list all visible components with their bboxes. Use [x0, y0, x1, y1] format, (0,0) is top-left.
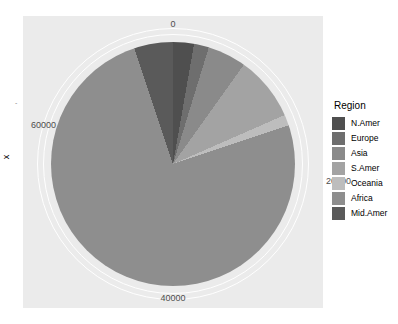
legend-item[interactable]: S.Amer	[332, 161, 398, 175]
axis-minor-tick-mark: -	[15, 99, 17, 106]
legend-title: Region	[334, 100, 398, 111]
legend-swatch-icon	[332, 192, 345, 205]
axis-tick-left: 60000	[31, 120, 56, 130]
y-axis-title: x	[1, 155, 11, 160]
pie-chart	[51, 42, 295, 286]
legend-swatch-icon	[332, 132, 345, 145]
legend-item[interactable]: Asia	[332, 146, 398, 160]
legend-swatch-icon	[332, 147, 345, 160]
legend-item-label: Asia	[351, 149, 368, 158]
legend-item-label: Mid.Amer	[351, 209, 387, 218]
chart-root: 0 20000 40000 60000 - x Region N.AmerEur…	[0, 0, 398, 324]
legend-item-label: Africa	[351, 194, 373, 203]
legend: Region N.AmerEuropeAsiaS.AmerOceaniaAfri…	[332, 100, 398, 221]
legend-item[interactable]: Mid.Amer	[332, 206, 398, 220]
legend-swatch-icon	[332, 162, 345, 175]
legend-swatch-icon	[332, 177, 345, 190]
legend-item-label: S.Amer	[351, 164, 379, 173]
pie-slices	[51, 42, 295, 286]
legend-item-label: N.Amer	[351, 119, 380, 128]
legend-item[interactable]: Oceania	[332, 176, 398, 190]
legend-items: N.AmerEuropeAsiaS.AmerOceaniaAfricaMid.A…	[332, 116, 398, 220]
plot-panel: 0 20000 40000 60000	[23, 16, 323, 308]
legend-swatch-icon	[332, 117, 345, 130]
legend-item-label: Europe	[351, 134, 378, 143]
legend-item[interactable]: Europe	[332, 131, 398, 145]
axis-tick-top: 0	[23, 19, 323, 29]
x-axis-title	[23, 311, 323, 323]
legend-item-label: Oceania	[351, 179, 383, 188]
legend-item[interactable]: N.Amer	[332, 116, 398, 130]
axis-tick-bottom: 40000	[23, 293, 323, 303]
legend-swatch-icon	[332, 207, 345, 220]
legend-item[interactable]: Africa	[332, 191, 398, 205]
